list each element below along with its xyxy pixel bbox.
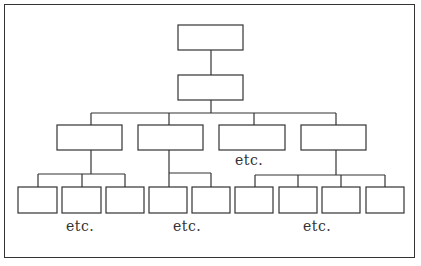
etc-label-group1: etc. <box>66 218 94 234</box>
box-level4-6 <box>235 187 273 213</box>
box-level4-4 <box>149 187 187 213</box>
box-level3-1 <box>57 125 122 150</box>
etc-label-level3: etc. <box>235 152 263 168</box>
box-level3-4 <box>301 125 366 150</box>
box-level4-2 <box>62 187 101 213</box>
box-level1 <box>178 25 243 50</box>
etc-label-group2: etc. <box>173 218 201 234</box>
box-level4-7 <box>279 187 317 213</box>
box-level4-8 <box>322 187 360 213</box>
box-level4-3 <box>106 187 144 213</box>
box-level4-9 <box>366 187 404 213</box>
box-level2 <box>178 75 243 100</box>
box-level3-2 <box>138 125 203 150</box>
box-level4-1 <box>18 187 57 213</box>
box-level4-5 <box>192 187 230 213</box>
org-chart <box>0 0 421 266</box>
box-level3-3 <box>219 125 285 150</box>
etc-label-group3: etc. <box>303 218 331 234</box>
